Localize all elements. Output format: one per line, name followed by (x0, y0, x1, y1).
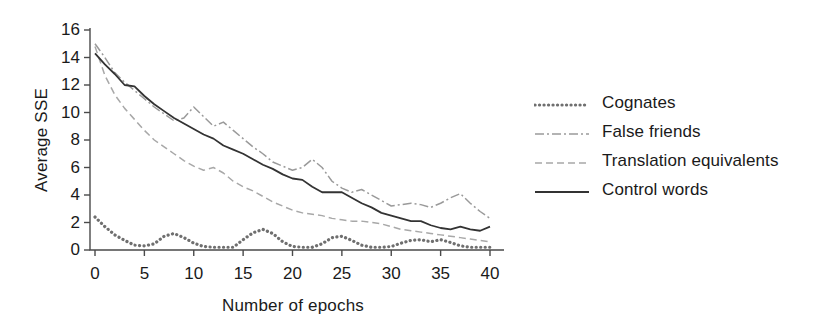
x-tick-label: 15 (223, 265, 263, 282)
chart-figure: 0246810121416 Average SSE Number of epoc… (0, 0, 825, 332)
y-tick-label: 8 (54, 131, 80, 148)
series-line-false-friends (95, 44, 490, 219)
axis-spine (90, 28, 504, 250)
y-tick-label: 0 (54, 241, 80, 258)
series-line-cognates (95, 217, 490, 247)
x-tick-label: 20 (273, 265, 313, 282)
y-tick-label: 4 (54, 186, 80, 203)
x-axis-title: Number of epochs (95, 296, 491, 316)
legend-label: Control words (602, 180, 708, 200)
y-tick-label: 10 (54, 104, 80, 121)
legend-item-false-friends[interactable]: False friends (534, 117, 824, 146)
series-line-control-words (95, 53, 490, 230)
legend-item-cognates[interactable]: Cognates (534, 88, 824, 117)
x-tick-label: 40 (470, 265, 510, 282)
x-tick-label: 0 (75, 265, 115, 282)
legend-swatch-dashed-icon (534, 155, 590, 167)
x-tick-label: 10 (174, 265, 214, 282)
y-axis-title: Average SSE (32, 30, 52, 250)
legend-label: Translation equivalents (602, 151, 779, 171)
y-tick-label: 16 (54, 21, 80, 38)
series-line-translation-equivalents (95, 47, 490, 242)
legend-item-control-words[interactable]: Control words (534, 175, 824, 204)
legend-swatch-solid-icon (534, 184, 590, 196)
x-tick-label: 35 (421, 265, 461, 282)
y-tick-label: 2 (54, 214, 80, 231)
legend-item-translation-equivalents[interactable]: Translation equivalents (534, 146, 824, 175)
x-tick-label: 25 (322, 265, 362, 282)
legend-label: False friends (602, 122, 701, 142)
legend-label: Cognates (602, 93, 676, 113)
y-tick-label: 6 (54, 159, 80, 176)
legend-swatch-dotted-icon (534, 97, 590, 109)
y-tick-label: 14 (54, 49, 80, 66)
chart-legend: CognatesFalse friendsTranslation equival… (534, 88, 824, 204)
legend-swatch-dash-dot-icon (534, 126, 590, 138)
y-tick-label: 12 (54, 76, 80, 93)
x-tick-label: 30 (371, 265, 411, 282)
x-tick-label: 5 (124, 265, 164, 282)
